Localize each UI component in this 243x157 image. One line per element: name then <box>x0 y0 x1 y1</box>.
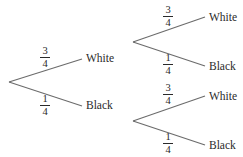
numerator: 3 <box>162 83 174 93</box>
prob-first-white: 3 4 <box>39 46 51 69</box>
prob-bottom-black: 1 4 <box>162 132 174 155</box>
denominator: 4 <box>39 59 51 69</box>
numerator: 1 <box>39 94 51 104</box>
denominator: 4 <box>39 107 51 117</box>
denominator: 4 <box>162 66 174 76</box>
denominator: 4 <box>162 145 174 155</box>
outcome-top-black: Black <box>209 60 236 72</box>
outcome-bottom-white: White <box>209 90 237 102</box>
outcome-first-white: White <box>86 52 114 64</box>
numerator: 1 <box>162 132 174 142</box>
prob-bottom-white: 3 4 <box>162 83 174 106</box>
prob-top-black: 1 4 <box>162 53 174 76</box>
outcome-top-white: White <box>209 11 237 23</box>
denominator: 4 <box>162 96 174 106</box>
numerator: 3 <box>39 46 51 56</box>
outcome-bottom-black: Black <box>209 139 236 151</box>
prob-first-black: 1 4 <box>39 94 51 117</box>
denominator: 4 <box>162 18 174 28</box>
prob-top-white: 3 4 <box>162 5 174 28</box>
numerator: 1 <box>162 53 174 63</box>
numerator: 3 <box>162 5 174 15</box>
tree-branches <box>0 0 243 157</box>
outcome-first-black: Black <box>86 99 113 111</box>
